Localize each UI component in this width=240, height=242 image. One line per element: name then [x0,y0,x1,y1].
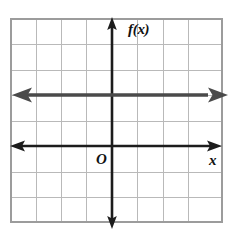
graph-figure: f(x) O x [0,0,240,242]
coordinate-grid-plot [0,0,240,242]
x-axis-label: x [209,153,217,168]
function-label: f(x) [128,22,149,37]
origin-label: O [96,152,107,167]
